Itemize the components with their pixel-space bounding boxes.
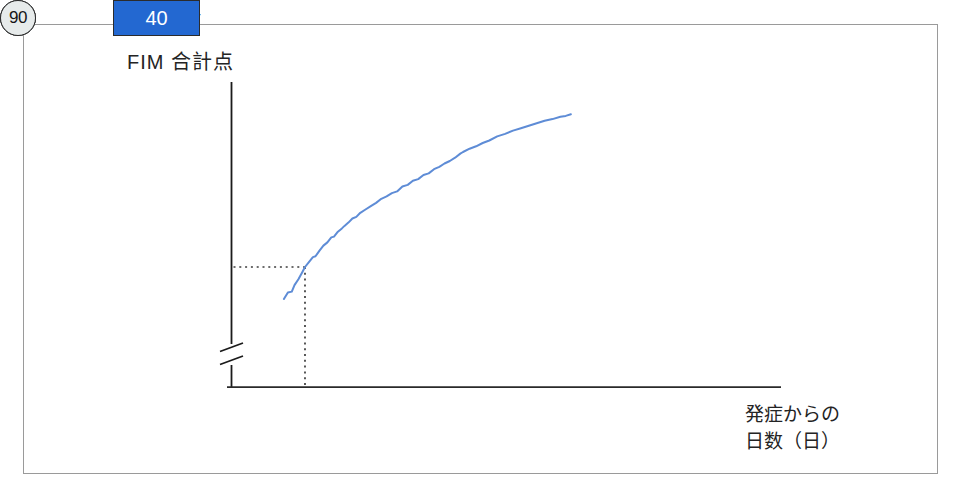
x-axis-label-line1: 発症からの [745, 401, 840, 428]
axis-break-icon [220, 343, 243, 352]
x-marker-circle-90: 90 [0, 0, 36, 36]
fim-curve [284, 114, 571, 299]
axis-break-icon [220, 356, 243, 365]
figure-canvas: FIM 合計点 54 45 40 30 45 90 発症からの 日数（日） [0, 0, 957, 495]
y-marker-box-40: 40 [113, 0, 200, 36]
x-axis-label-line2: 日数（日） [745, 428, 840, 455]
x-axis-label: 発症からの 日数（日） [745, 401, 840, 455]
y-axis-title: FIM 合計点 [127, 46, 234, 75]
